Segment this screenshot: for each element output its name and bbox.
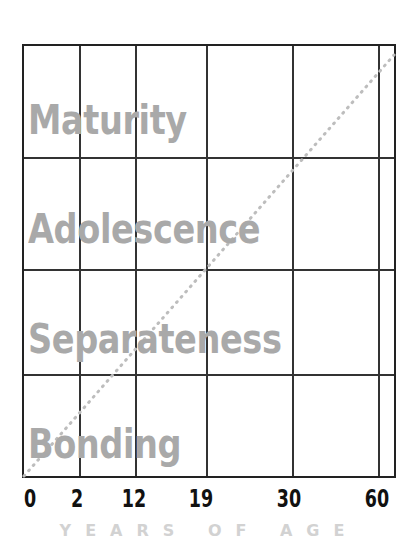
x-tick-label-60: 60 xyxy=(362,486,391,511)
gridline-vertical-60 xyxy=(378,46,380,476)
gridline-horizontal-adolescence xyxy=(24,269,394,271)
band-label-bonding: Bonding xyxy=(28,424,181,464)
x-tick-label-12: 12 xyxy=(119,486,148,511)
development-stages-chart: Maturity Adolescence Separateness Bondin… xyxy=(0,0,412,553)
gridline-vertical-19 xyxy=(206,46,208,476)
gridline-vertical-30 xyxy=(292,46,294,476)
x-axis-caption: YEARS OF AGE xyxy=(22,521,396,540)
gridline-horizontal-separateness xyxy=(24,374,394,376)
band-label-separateness: Separateness xyxy=(28,319,281,359)
x-tick-label-19: 19 xyxy=(186,486,215,511)
x-tick-label-0: 0 xyxy=(20,486,41,511)
band-label-maturity: Maturity xyxy=(28,100,187,140)
gridline-horizontal-maturity xyxy=(24,157,394,159)
band-label-adolescence: Adolescence xyxy=(28,209,260,249)
x-tick-label-2: 2 xyxy=(67,486,88,511)
x-tick-label-30: 30 xyxy=(274,486,303,511)
